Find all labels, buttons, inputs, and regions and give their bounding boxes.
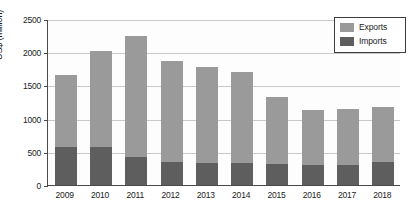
bar-segment-imports[interactable] — [266, 164, 288, 185]
y-axis-tick — [44, 20, 48, 21]
y-tick-label: 0 — [36, 182, 41, 190]
legend-item-imports: Imports — [340, 37, 387, 46]
bar-segment-imports[interactable] — [231, 163, 253, 185]
bar-segment-exports[interactable] — [196, 67, 218, 163]
y-tick-label: 2500 — [23, 16, 41, 24]
bar-group[interactable] — [302, 110, 324, 185]
legend-label-exports: Exports — [359, 23, 387, 32]
bar-group[interactable] — [337, 109, 359, 185]
bar-segment-exports[interactable] — [302, 110, 324, 165]
y-axis-tick — [44, 153, 48, 154]
bar-segment-exports[interactable] — [125, 36, 147, 157]
bar-group[interactable] — [55, 75, 77, 185]
bar-group[interactable] — [266, 97, 288, 185]
bar-segment-exports[interactable] — [90, 51, 112, 147]
bar-group[interactable] — [125, 36, 147, 185]
bar-group[interactable] — [231, 72, 253, 185]
y-axis-tick — [44, 120, 48, 121]
y-axis-tick — [44, 186, 48, 187]
bar-segment-exports[interactable] — [372, 107, 394, 163]
bar-group[interactable] — [196, 67, 218, 185]
bar-segment-exports[interactable] — [55, 75, 77, 146]
legend-swatch-imports — [340, 37, 354, 46]
legend-label-imports: Imports — [359, 37, 387, 46]
y-axis-tick — [44, 86, 48, 87]
bar-segment-imports[interactable] — [161, 162, 183, 185]
y-axis-tick — [44, 53, 48, 54]
legend-swatch-exports — [340, 23, 354, 32]
bar-segment-imports[interactable] — [372, 162, 394, 185]
bar-segment-imports[interactable] — [196, 163, 218, 185]
bar-segment-exports[interactable] — [266, 97, 288, 164]
bar-segment-imports[interactable] — [90, 147, 112, 185]
y-tick-label: 2000 — [23, 49, 41, 57]
bar-segment-imports[interactable] — [125, 157, 147, 185]
bar-segment-exports[interactable] — [161, 61, 183, 162]
bar-segment-imports[interactable] — [337, 165, 359, 185]
bar-segment-exports[interactable] — [337, 109, 359, 165]
bar-segment-exports[interactable] — [231, 72, 253, 163]
y-tick-label: 1500 — [23, 82, 41, 90]
legend: Exports Imports — [334, 17, 406, 53]
stacked-bar-chart: US$ (million) 05001000150020002500 20092… — [0, 0, 420, 212]
y-axis-title: US$ (million) — [0, 10, 4, 60]
y-tick-label: 500 — [27, 149, 41, 157]
bar-segment-imports[interactable] — [55, 147, 77, 186]
y-tick-label: 1000 — [23, 116, 41, 124]
x-tick-label: 2018 — [360, 190, 404, 200]
bar-group[interactable] — [161, 61, 183, 185]
bar-group[interactable] — [372, 107, 394, 185]
legend-item-exports: Exports — [340, 23, 387, 32]
bar-group[interactable] — [90, 51, 112, 185]
bar-segment-imports[interactable] — [302, 165, 324, 185]
